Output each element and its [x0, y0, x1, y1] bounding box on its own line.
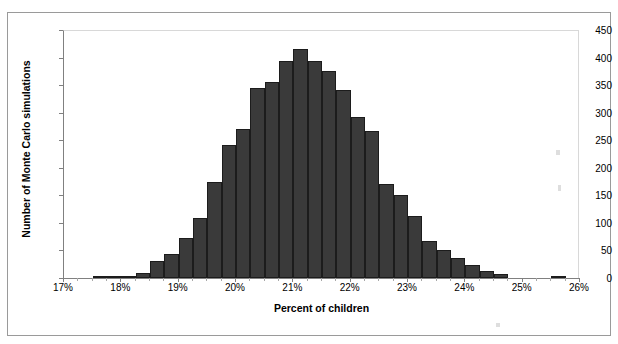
x-axis-minor-tick-mark — [421, 278, 422, 281]
x-axis-title: Percent of children — [63, 302, 580, 314]
x-axis-tick-label: 21% — [282, 282, 302, 293]
x-axis-minor-tick-mark — [163, 278, 164, 281]
x-axis-minor-tick-mark — [92, 278, 93, 281]
x-axis-minor-tick-mark — [264, 278, 265, 281]
x-axis-minor-tick-mark — [507, 278, 508, 281]
figure-frame: Number of Monte Carlo simulations 050100… — [7, 12, 611, 336]
histogram-bar — [336, 90, 350, 278]
x-axis-minor-tick-mark — [364, 278, 365, 281]
x-axis-minor-tick-mark — [77, 278, 78, 281]
histogram-bar — [322, 71, 336, 278]
histogram-bar — [164, 254, 178, 278]
histogram-chart: Number of Monte Carlo simulations 050100… — [8, 13, 612, 337]
x-axis-minor-tick-mark — [321, 278, 322, 281]
histogram-bar — [236, 129, 250, 278]
x-axis-tick-label: 23% — [397, 282, 417, 293]
histogram-bar — [265, 82, 279, 278]
x-axis-tick-label: 24% — [454, 282, 474, 293]
y-axis-title: Number of Monte Carlo simulations — [20, 39, 32, 259]
x-axis-minor-tick-mark — [135, 278, 136, 281]
x-axis-minor-tick-mark — [536, 278, 537, 281]
page-top-cut-text — [0, 0, 618, 11]
x-axis-minor-tick-mark — [206, 278, 207, 281]
histogram-bar — [465, 265, 479, 278]
histogram-bar — [437, 250, 451, 278]
x-axis-minor-tick-mark — [393, 278, 394, 281]
histogram-bar — [150, 261, 164, 278]
scan-speckle — [558, 185, 561, 191]
x-axis-minor-tick-mark — [550, 278, 551, 281]
x-axis-tick-label: 20% — [225, 282, 245, 293]
x-axis-minor-tick-mark — [278, 278, 279, 281]
histogram-bar — [193, 218, 207, 278]
histogram-bar — [451, 258, 465, 278]
x-axis-minor-tick-mark — [221, 278, 222, 281]
x-axis-tick-label: 18% — [110, 282, 130, 293]
histogram-bar — [222, 145, 236, 278]
x-axis-minor-tick-mark — [106, 278, 107, 281]
x-axis-minor-tick-mark — [565, 278, 566, 281]
histogram-bar — [207, 182, 221, 278]
x-axis-minor-tick-mark — [436, 278, 437, 281]
bars-layer — [64, 31, 578, 278]
x-axis-minor-tick-mark — [149, 278, 150, 281]
histogram-bar — [279, 61, 293, 278]
histogram-bar — [480, 271, 494, 278]
histogram-bar — [365, 131, 379, 278]
x-axis-tick-label: 25% — [512, 282, 532, 293]
histogram-bar — [250, 88, 264, 278]
histogram-bar — [379, 184, 393, 278]
histogram-bar — [351, 117, 365, 278]
x-axis-minor-tick-mark — [450, 278, 451, 281]
histogram-bar — [422, 241, 436, 278]
x-axis-tick-label: 26% — [569, 282, 589, 293]
scan-speckle — [496, 323, 500, 327]
histogram-bar — [308, 61, 322, 278]
x-axis-minor-tick-mark — [479, 278, 480, 281]
x-axis-minor-tick-mark — [249, 278, 250, 281]
histogram-bar — [408, 216, 422, 278]
x-axis-minor-tick-mark — [378, 278, 379, 281]
x-axis-minor-tick-mark — [307, 278, 308, 281]
histogram-bar — [293, 49, 307, 278]
x-axis-tick-label: 17% — [53, 282, 73, 293]
x-axis-minor-tick-mark — [493, 278, 494, 281]
x-axis-minor-tick-mark — [192, 278, 193, 281]
x-axis-tick-label: 19% — [168, 282, 188, 293]
histogram-bar — [179, 238, 193, 278]
plot-area — [63, 30, 579, 278]
histogram-bar — [394, 195, 408, 278]
scan-speckle — [556, 150, 560, 155]
x-axis-tick-label: 22% — [340, 282, 360, 293]
x-axis-minor-tick-mark — [335, 278, 336, 281]
